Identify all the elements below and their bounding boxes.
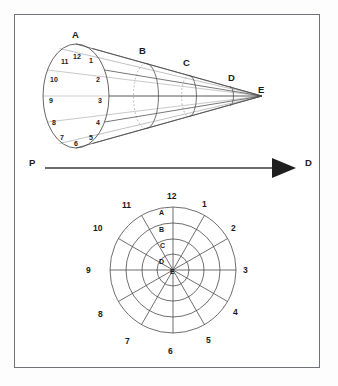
polar-ring-label-A: A — [159, 209, 164, 216]
polar-number-6: 6 — [168, 347, 173, 356]
cone-clock-number-2: 2 — [96, 76, 100, 83]
cone-clock-number-10: 10 — [50, 76, 58, 83]
polar-number-7: 7 — [125, 337, 130, 346]
arrow-end-label-D: D — [305, 158, 312, 168]
figure-root: A B C D E 12 1 2 3 4 5 6 7 8 9 10 11 P D… — [0, 0, 338, 386]
cone-clock-number-8: 8 — [52, 119, 56, 126]
cone-clock-number-11: 11 — [61, 58, 68, 65]
cone-label-E: E — [258, 85, 264, 95]
polar-ring-label-B: B — [159, 226, 164, 233]
cone-clock-number-6: 6 — [74, 140, 78, 147]
polar-number-1: 1 — [202, 200, 207, 209]
cone-generator — [76, 96, 262, 148]
polar-number-9: 9 — [86, 266, 91, 275]
cone-clock-number-12: 12 — [73, 53, 81, 60]
arrow-start-label-P: P — [29, 158, 35, 168]
cone-clock-number-3: 3 — [98, 97, 102, 104]
cone-label-A: A — [72, 30, 79, 40]
arrow-head — [272, 158, 296, 178]
cone-clock-number-7: 7 — [60, 134, 64, 141]
cone-clock-number-9: 9 — [49, 97, 53, 104]
polar-number-8: 8 — [98, 310, 103, 319]
cone-clock-number-5: 5 — [89, 134, 93, 141]
cone-label-D: D — [228, 73, 235, 83]
arrow-group — [45, 158, 296, 178]
cone-clock-number-1: 1 — [89, 57, 93, 64]
polar-ring-label-D: D — [159, 258, 164, 265]
polar-number-11: 11 — [122, 201, 131, 210]
polar-number-2: 2 — [231, 224, 236, 233]
polar-number-5: 5 — [206, 336, 211, 345]
polar-number-10: 10 — [93, 224, 102, 233]
cone-label-B: B — [139, 46, 146, 56]
cone-generator — [47, 96, 262, 122]
polar-number-4: 4 — [233, 308, 238, 317]
polar-ring-label-E: E — [170, 268, 175, 275]
polar-ring-label-C: C — [160, 242, 165, 249]
cone-clock-number-4: 4 — [96, 119, 100, 126]
polar-number-12: 12 — [167, 192, 176, 201]
polar-number-3: 3 — [243, 266, 248, 275]
cone-label-C: C — [183, 58, 190, 68]
